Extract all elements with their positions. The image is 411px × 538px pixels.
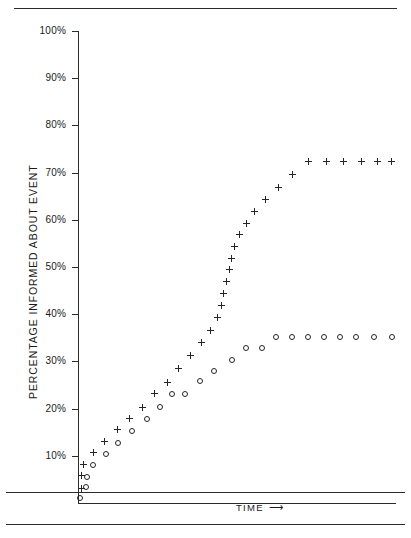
figure: 100%90%80%70%60%50%40%30%20%10% PERCENTA… bbox=[0, 0, 411, 538]
y-axis-tick-label: 10% bbox=[45, 450, 66, 461]
bottom-rule bbox=[6, 524, 405, 525]
x-axis-title: TIME⟶ bbox=[236, 502, 283, 513]
y-axis-tick-label: 60% bbox=[45, 214, 66, 225]
y-axis-tick-label: 40% bbox=[45, 308, 66, 319]
y-axis-tick-label: 80% bbox=[45, 119, 66, 130]
y-axis-tick-label: 50% bbox=[45, 261, 66, 272]
y-axis-tick-label: 20% bbox=[45, 403, 66, 414]
y-axis-tick-label: 70% bbox=[45, 167, 66, 178]
y-axis-title: PERCENTAGE INFORMED ABOUT EVENT bbox=[27, 169, 39, 399]
x-axis-arrow-icon: ⟶ bbox=[264, 502, 283, 513]
x-axis-title-text: TIME bbox=[236, 502, 264, 513]
y-axis-tick-label: 90% bbox=[45, 72, 66, 83]
plot-area bbox=[78, 31, 398, 503]
y-axis-tick-label: 30% bbox=[45, 355, 66, 366]
top-rule bbox=[14, 8, 397, 9]
y-axis-tick-label: 100% bbox=[40, 25, 66, 36]
